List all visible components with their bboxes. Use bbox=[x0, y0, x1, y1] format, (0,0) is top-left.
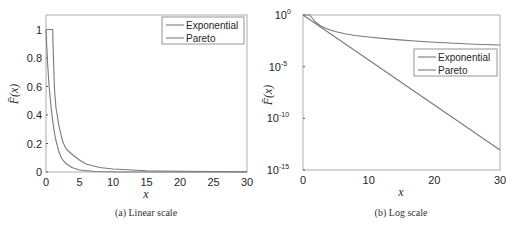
right-y-tick-3: 10 bbox=[267, 164, 279, 176]
left-y-ticks: 0 0.2 0.4 0.6 0.8 1 bbox=[27, 24, 48, 179]
left-caption: (a) Linear scale bbox=[115, 207, 178, 219]
right-y-axis-label: F̄(x) bbox=[261, 85, 275, 107]
left-x-tick-4: 20 bbox=[174, 176, 186, 188]
left-y-tick-3: 0.6 bbox=[27, 81, 42, 93]
left-x-tick-6: 30 bbox=[241, 176, 253, 188]
left-legend: Exponential Pareto bbox=[162, 17, 244, 44]
left-y-tick-2: 0.4 bbox=[27, 109, 42, 121]
right-plot-box bbox=[303, 15, 500, 170]
legend-label-exponential: Exponential bbox=[186, 20, 238, 31]
left-y-tick-4: 0.8 bbox=[27, 52, 42, 64]
right-y-tick-1-exp: -5 bbox=[281, 60, 287, 67]
right-y-tick-0: 10 bbox=[275, 9, 287, 21]
right-y-tick-2: 10 bbox=[267, 112, 279, 124]
right-caption: (b) Log scale bbox=[375, 207, 428, 219]
right-exponential-line bbox=[303, 15, 500, 150]
left-y-tick-1: 0.2 bbox=[27, 138, 42, 150]
right-x-tick-1: 10 bbox=[363, 174, 375, 186]
legend-label-pareto: Pareto bbox=[186, 33, 216, 44]
right-x-axis-label: x bbox=[397, 185, 404, 199]
right-y-tick-1: 10 bbox=[269, 61, 281, 73]
left-x-tick-0: 0 bbox=[43, 176, 49, 188]
right-pareto-line bbox=[303, 15, 500, 45]
right-x-tick-2: 20 bbox=[428, 174, 440, 186]
right-y-tick-3-exp: -15 bbox=[279, 163, 289, 170]
left-x-tick-1: 5 bbox=[76, 176, 82, 188]
left-y-tick-0: 0 bbox=[36, 166, 42, 178]
left-pareto-line bbox=[46, 30, 247, 172]
right-y-tick-2-exp: -10 bbox=[279, 111, 289, 118]
left-x-tick-5: 25 bbox=[207, 176, 219, 188]
left-y-axis-label: F̄(x) bbox=[7, 84, 21, 106]
right-y-tick-0-exp: 0 bbox=[287, 8, 291, 15]
left-y-tick-5: 1 bbox=[36, 24, 42, 36]
right-x-tick-0: 0 bbox=[300, 174, 306, 186]
right-legend: Exponential Pareto bbox=[414, 49, 497, 76]
legend-label-exponential: Exponential bbox=[438, 52, 490, 63]
figure: 0 0.2 0.4 0.6 0.8 1 0 5 10 15 20 25 30 E… bbox=[0, 0, 513, 227]
left-exponential-line bbox=[46, 30, 247, 173]
right-x-tick-3: 30 bbox=[494, 174, 506, 186]
right-chart: 10 0 10 -5 10 -10 10 -15 0 10 20 30 Expo… bbox=[261, 8, 506, 219]
left-chart: 0 0.2 0.4 0.6 0.8 1 0 5 10 15 20 25 30 E… bbox=[7, 15, 253, 219]
legend-label-pareto: Pareto bbox=[438, 65, 468, 76]
left-x-tick-2: 10 bbox=[107, 176, 119, 188]
left-x-axis-label: x bbox=[142, 187, 149, 201]
